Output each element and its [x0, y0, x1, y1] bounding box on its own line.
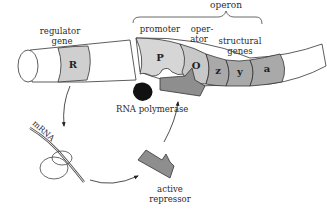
lac-operon-diagram: operon R P O z y a regulator gene promot… — [0, 0, 327, 209]
ribosome-large-subunit — [40, 157, 68, 179]
promoter-gene-letter: P — [156, 52, 164, 63]
ribosome-small-subunit — [52, 151, 72, 165]
regulator-gene-letter: R — [69, 59, 78, 70]
active-repressor-label-line2: repressor — [149, 194, 191, 204]
active-repressor — [138, 150, 174, 178]
active-repressor-label-line1: active — [157, 184, 183, 194]
operator-gene-letter: O — [192, 60, 201, 71]
structural-label-line2: genes — [227, 46, 252, 56]
regulator-label-line1: regulator — [40, 26, 81, 36]
rna-polymerase-blob — [133, 82, 153, 101]
operon-bracket — [133, 11, 262, 24]
operator-label-line2: ator — [190, 34, 209, 44]
structural-gene-z-letter: z — [215, 65, 221, 76]
mrna-strand — [30, 128, 84, 182]
operator-label-line1: oper- — [191, 24, 214, 34]
promoter-label: promoter — [140, 24, 181, 34]
arrow-mrna-to-repressor — [90, 176, 138, 183]
structural-label-line1: structural — [219, 36, 262, 46]
operon-label: operon — [210, 0, 242, 10]
dna-left-end — [18, 50, 38, 82]
structural-gene-a-letter: a — [264, 63, 271, 74]
structural-gene-y-letter: y — [236, 66, 244, 77]
regulator-label-line2: gene — [52, 36, 73, 46]
arrow-gene-to-mrna — [64, 86, 70, 126]
